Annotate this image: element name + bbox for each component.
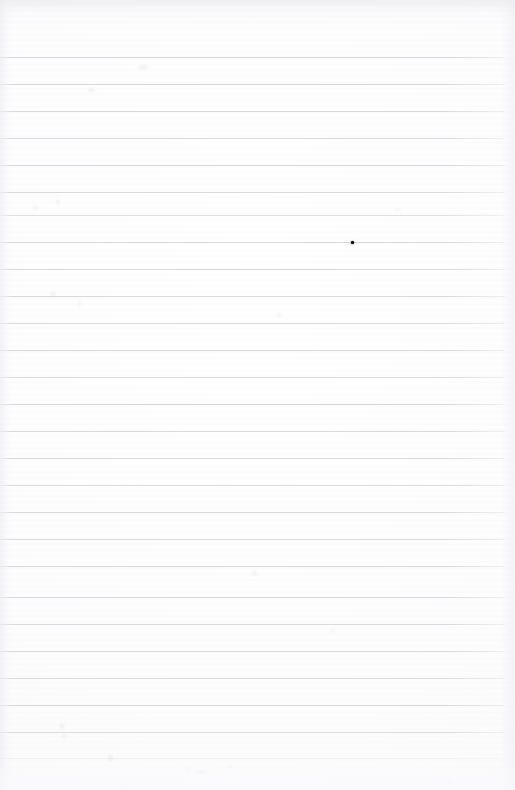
- rule-line: [0, 597, 505, 598]
- rule-line: [0, 215, 505, 216]
- rule-line: [0, 269, 505, 270]
- rule-line: [0, 242, 505, 243]
- rule-line: [0, 539, 505, 540]
- rule-line: [0, 57, 505, 58]
- rule-line: [0, 296, 505, 297]
- rule-line: [0, 624, 505, 625]
- rule-line: [0, 458, 505, 459]
- ink-dot-mark: [351, 241, 354, 244]
- ruled-lines-group: [0, 0, 515, 790]
- rule-line: [0, 138, 505, 139]
- rule-line: [0, 512, 505, 513]
- rule-line: [0, 732, 505, 733]
- rule-line: [0, 84, 505, 85]
- rule-line: [0, 758, 505, 759]
- rule-line: [0, 377, 505, 378]
- rule-line: [0, 165, 505, 166]
- rule-line: [0, 678, 505, 679]
- rule-line: [0, 323, 505, 324]
- rule-line: [0, 431, 505, 432]
- rule-line: [0, 192, 505, 193]
- rule-line: [0, 485, 505, 486]
- rule-line: [0, 705, 505, 706]
- rule-line: [0, 111, 505, 112]
- rule-line: [0, 566, 505, 567]
- rule-line: [0, 651, 505, 652]
- rule-line: [0, 350, 505, 351]
- rule-line: [0, 404, 505, 405]
- scanned-page: [0, 0, 515, 790]
